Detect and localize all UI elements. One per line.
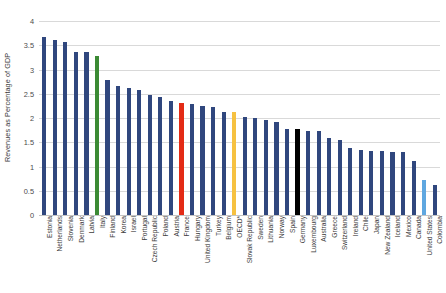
x-axis-tick-label: New Zealand	[385, 216, 392, 255]
x-axis-tick-label: United Kingdom	[205, 216, 212, 263]
bar	[264, 120, 268, 215]
x-axis-tick-label: Chile	[363, 216, 370, 231]
x-axis-tick-label: Mexico	[406, 216, 413, 237]
bar	[369, 151, 373, 215]
x-axis-tick-label: Slovenia	[68, 216, 75, 241]
bars-layer	[39, 21, 440, 215]
y-axis-tick-label: 1.5	[24, 138, 34, 147]
x-axis-tick-label: Germany	[300, 216, 307, 243]
x-axis-tick-label: Israel	[131, 216, 138, 232]
y-axis-tick-label: 3.5	[24, 41, 34, 50]
bar	[306, 131, 310, 215]
bar	[412, 161, 416, 215]
x-axis-tick-label: Latvia	[89, 216, 96, 234]
bar	[243, 117, 247, 215]
bar	[390, 152, 394, 215]
y-axis-title: Revenues as Percentage of GDP	[0, 0, 16, 215]
bar	[317, 131, 321, 215]
x-axis-tick-label: Lithuania	[268, 216, 275, 243]
bar	[380, 151, 384, 215]
x-axis-tick-label: Norway	[279, 216, 286, 238]
x-axis-tick-label: Czech Republic	[152, 216, 159, 262]
bar	[105, 80, 109, 215]
bar	[222, 112, 226, 215]
bar	[232, 112, 236, 215]
bar	[63, 42, 67, 215]
bar	[84, 52, 88, 215]
x-axis-tick-label: Canada	[416, 216, 423, 239]
y-axis-title-text: Revenues as Percentage of GDP	[4, 53, 13, 162]
bar	[158, 97, 162, 215]
y-axis-tick-label: 3	[30, 65, 34, 74]
x-axis-tick-label: Estonia	[47, 216, 54, 238]
x-axis-tick-label: Iceland	[395, 216, 402, 237]
x-axis-tick-label: Spain	[290, 216, 297, 233]
bar	[295, 129, 299, 215]
x-axis-tick-label: Portugal	[142, 216, 149, 241]
bar	[169, 101, 173, 215]
y-axis-tick-label: 1	[30, 162, 34, 171]
bar	[179, 103, 183, 215]
bar	[42, 37, 46, 215]
x-axis-tick-labels: EstoniaNetherlandsSloveniaDenmarkLatviaI…	[39, 216, 440, 293]
x-axis-tick-label: Ireland	[353, 216, 360, 236]
x-axis-tick-label: Netherlands	[57, 216, 64, 252]
bar	[253, 118, 257, 215]
bar	[211, 107, 215, 215]
x-axis-tick-label: Italy	[100, 216, 107, 228]
x-axis-tick-label: Poland	[163, 216, 170, 237]
x-axis-tick-label: Luxembourg	[311, 216, 318, 253]
x-axis-tick-label: Korea	[121, 216, 128, 234]
bar	[116, 86, 120, 215]
bar	[433, 185, 437, 215]
x-axis-tick-label: Japan	[374, 216, 381, 234]
bar	[74, 52, 78, 215]
y-axis-tick-label: 0	[30, 211, 34, 220]
bar	[53, 40, 57, 215]
bar	[127, 88, 131, 215]
bar	[137, 90, 141, 215]
bar	[359, 150, 363, 215]
bar	[274, 122, 278, 215]
x-axis-tick-label: Slovak Republic	[247, 216, 254, 263]
bar	[148, 95, 152, 215]
bar	[401, 152, 405, 215]
x-axis-tick-label: Finland	[110, 216, 117, 238]
x-axis-tick-label: Turkey	[216, 216, 223, 236]
x-axis-tick-label: Colombia	[437, 216, 444, 244]
x-axis-tick-label: Sweden	[258, 216, 265, 240]
y-axis-tick-label: 2	[30, 114, 34, 123]
y-axis-tick-label: 4	[30, 17, 34, 26]
bar	[190, 104, 194, 215]
x-axis-tick-label: Denmark	[79, 216, 86, 243]
x-axis-tick-label: Australia	[321, 216, 328, 242]
x-axis-tick-label: Austria	[174, 216, 181, 237]
y-axis-tick-labels: 00.511.522.533.54	[16, 0, 37, 225]
x-axis-tick-label: United States	[427, 216, 434, 256]
bar	[348, 148, 352, 215]
plot-area	[39, 21, 440, 215]
bar	[338, 140, 342, 215]
bar	[200, 106, 204, 215]
bar	[327, 138, 331, 215]
bar	[422, 180, 426, 215]
x-axis-tick-label: Hungary	[195, 216, 202, 241]
y-axis-tick-label: 0.5	[24, 186, 34, 195]
x-axis-tick-label: France	[184, 216, 191, 237]
bar	[285, 129, 289, 215]
x-axis-tick-label: Greece	[332, 216, 339, 238]
bar	[95, 56, 99, 215]
x-axis-tick-label: Belgium	[226, 216, 233, 240]
y-axis-tick-label: 2.5	[24, 89, 34, 98]
x-axis-tick-label: Switzerland	[342, 216, 349, 250]
x-axis-tick-label: OECD*	[237, 216, 244, 238]
bar-chart: Revenues as Percentage of GDP 00.511.522…	[0, 0, 446, 293]
